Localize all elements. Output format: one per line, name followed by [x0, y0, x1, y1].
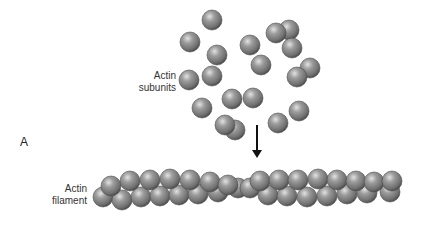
actin-subunit-sphere — [202, 10, 222, 30]
actin-subunit-sphere — [192, 98, 212, 118]
filament-monomer-sphere — [288, 170, 308, 190]
actin-subunit-sphere — [215, 115, 235, 135]
filament-monomer-sphere — [160, 169, 180, 189]
filament-monomer-sphere — [200, 172, 220, 192]
filament-monomer-sphere — [269, 170, 289, 190]
filament-monomer-sphere — [101, 176, 121, 196]
actin-subunit-sphere — [243, 88, 263, 108]
actin-subunit-sphere — [289, 101, 309, 121]
actin-subunit-sphere — [287, 67, 307, 87]
actin-subunit-sphere — [282, 38, 302, 58]
actin-subunit-sphere — [240, 35, 260, 55]
actin-subunit-sphere — [266, 23, 286, 43]
actin-subunits — [179, 10, 320, 140]
filament-monomer-sphere — [218, 175, 238, 195]
filament-monomer-sphere — [346, 171, 366, 191]
filament-monomer-sphere — [327, 170, 347, 190]
down-arrow-icon — [252, 125, 262, 158]
filament-monomer-sphere — [250, 171, 270, 191]
filament-monomer-sphere — [308, 169, 328, 189]
filament-monomer-sphere — [180, 170, 200, 190]
actin-subunit-sphere — [180, 32, 200, 52]
actin-subunit-sphere — [222, 89, 242, 109]
actin-subunit-sphere — [202, 66, 222, 86]
actin-diagram — [0, 0, 422, 227]
actin-subunit-sphere — [268, 113, 288, 133]
filament-monomer-sphere — [382, 171, 402, 191]
filament-monomer-sphere — [140, 170, 160, 190]
actin-subunit-sphere — [179, 70, 199, 90]
actin-subunit-sphere — [207, 45, 227, 65]
filament-monomer-sphere — [364, 172, 384, 192]
filament-monomer-sphere — [120, 171, 140, 191]
actin-subunit-sphere — [251, 55, 271, 75]
